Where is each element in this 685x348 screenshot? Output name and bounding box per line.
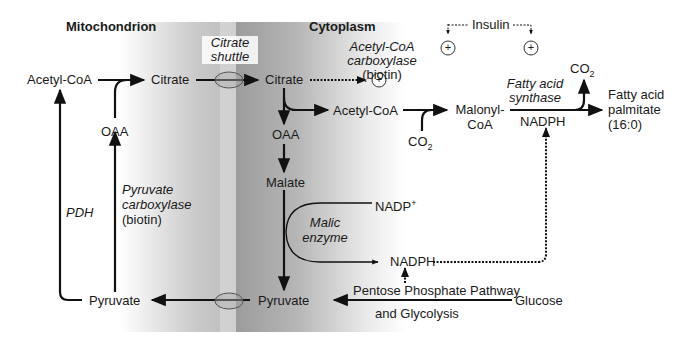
oaa-mito: OAA: [101, 124, 128, 139]
citrate-mito: Citrate: [151, 72, 189, 87]
activator-acc-icon: +: [372, 72, 386, 87]
nadp-plus: NADP+: [375, 196, 416, 214]
co2-input: CO2: [408, 134, 433, 155]
malic-enzyme-label: Malic enzyme: [300, 215, 350, 245]
oaa-cyto: OAA: [272, 127, 299, 142]
glycolysis-label: and Glycolysis: [375, 306, 459, 321]
citrate-cyto: Citrate: [265, 72, 303, 87]
cytoplasm-label: Cytoplasm: [309, 19, 375, 34]
citrate-shuttle-label: Citrate shuttle: [202, 36, 258, 64]
insulin-label: Insulin: [472, 17, 510, 32]
acetyl-coa-cyto: Acetyl-CoA: [333, 103, 398, 118]
fatty-acid-palmitate: Fatty acid palmitate (16:0): [608, 87, 664, 132]
nadph-fas: NADPH: [520, 114, 566, 129]
malate: Malate: [266, 175, 305, 190]
acetyl-coa-mito: Acetyl-CoA: [27, 72, 92, 87]
nadph-malic: NADPH: [390, 254, 436, 269]
malonyl-coa: Malonyl- CoA: [450, 102, 510, 132]
insulin-activator-fas-icon: +: [524, 40, 538, 55]
mitochondrion-label: Mitochondrion: [66, 19, 156, 34]
pdh-enzyme-label: PDH: [66, 205, 93, 220]
fatty-acid-synthase-label: Fatty acid synthase: [500, 77, 570, 105]
pyruvate-cyto: Pyruvate: [258, 293, 309, 308]
co2-output: CO2: [570, 61, 595, 82]
ppp-label: Pentose Phosphate Pathway: [353, 283, 520, 298]
glucose: Glucose: [515, 293, 563, 308]
insulin-activator-acc-icon: +: [441, 40, 455, 55]
pyruvate-mito: Pyruvate: [89, 293, 140, 308]
pyruvate-carboxylase-label: Pyruvate carboxylase (biotin): [122, 182, 191, 227]
